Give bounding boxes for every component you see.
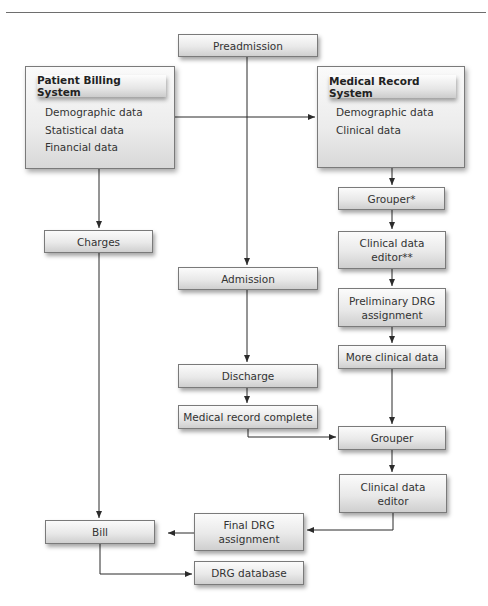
node-label: Grouper: [371, 431, 414, 445]
node-admission: Admission: [178, 267, 318, 290]
node-label-line: assignment: [218, 532, 279, 546]
node-final-drg-assignment: Final DRG assignment: [194, 513, 304, 551]
node-label: Preadmission: [213, 39, 283, 53]
system-title-text: Patient Billing System: [37, 74, 166, 98]
system-title: Patient Billing System: [37, 75, 166, 97]
node-medical-record-complete: Medical record complete: [178, 405, 318, 429]
node-label: Discharge: [222, 369, 275, 383]
system-data-list: Demographic data Statistical data Financ…: [45, 104, 143, 157]
node-bill: Bill: [45, 520, 155, 544]
node-preliminary-drg-assignment: Preliminary DRG assignment: [338, 288, 446, 327]
data-item: Statistical data: [45, 122, 143, 140]
node-label-line: Clinical data: [360, 236, 425, 250]
node-charges: Charges: [44, 230, 153, 253]
node-more-clinical-data: More clinical data: [338, 345, 446, 369]
system-title: Medical Record System: [329, 75, 456, 98]
node-label-line: editor**: [371, 250, 412, 264]
node-discharge: Discharge: [178, 364, 318, 388]
node-grouper-star: Grouper*: [338, 187, 445, 210]
node-clinical-data-editor-2star: Clinical data editor**: [338, 231, 446, 269]
node-grouper: Grouper: [338, 426, 446, 450]
node-medical-record-system: Medical Record System Demographic data C…: [317, 66, 465, 168]
node-label: Grouper*: [368, 192, 416, 206]
data-item: Clinical data: [336, 122, 434, 140]
node-preadmission: Preadmission: [178, 34, 318, 57]
node-label: Charges: [77, 235, 120, 249]
node-label-line: assignment: [361, 308, 422, 322]
data-item: Demographic data: [336, 104, 434, 122]
node-label: Bill: [92, 525, 108, 539]
node-label-line: Preliminary DRG: [349, 294, 435, 308]
node-drg-database: DRG database: [194, 561, 304, 585]
node-label: Medical record complete: [183, 410, 313, 424]
node-label-line: Final DRG: [223, 518, 274, 532]
system-data-list: Demographic data Clinical data: [336, 104, 434, 139]
node-label-line: editor: [378, 494, 409, 508]
data-item: Financial data: [45, 139, 143, 157]
node-label: Admission: [221, 272, 275, 286]
node-clinical-data-editor: Clinical data editor: [339, 474, 447, 513]
node-label: More clinical data: [346, 350, 439, 364]
node-label: DRG database: [211, 566, 287, 580]
system-title-text: Medical Record System: [329, 75, 456, 99]
node-patient-billing-system: Patient Billing System Demographic data …: [25, 66, 175, 169]
node-label-line: Clinical data: [361, 480, 426, 494]
data-item: Demographic data: [45, 104, 143, 122]
